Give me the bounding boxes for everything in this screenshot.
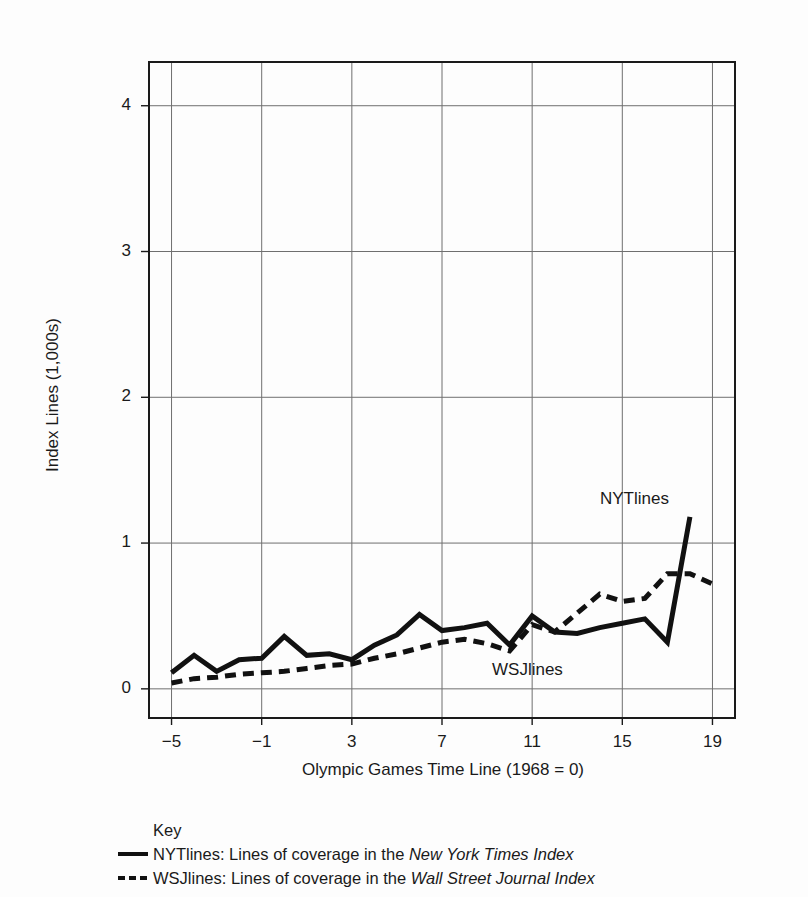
legend-entry-label: NYTlines: Lines of coverage in the New Y… <box>153 842 574 866</box>
x-tick-label: 15 <box>597 732 647 752</box>
legend-entry: NYTlines: Lines of coverage in the New Y… <box>118 842 595 866</box>
x-tick-label: −5 <box>147 732 197 752</box>
legend-entry-source: New York Times Index <box>409 845 574 863</box>
y-axis-label: Index Lines (1,000s) <box>43 280 63 510</box>
legend-title: Key <box>153 818 595 842</box>
x-tick-label: 19 <box>687 732 737 752</box>
x-tick-label: 3 <box>327 732 377 752</box>
axis-ticks <box>141 106 712 725</box>
legend-entry: WSJlines: Lines of coverage in the Wall … <box>118 866 595 890</box>
x-tick-label: −1 <box>237 732 287 752</box>
legend-entry-label: WSJlines: Lines of coverage in the Wall … <box>153 866 595 890</box>
y-tick-label: 2 <box>91 386 131 406</box>
y-tick-label: 1 <box>91 532 131 552</box>
x-tick-label: 7 <box>417 732 467 752</box>
chart-figure: 01234 −5−137111519 Olympic Games Time Li… <box>0 0 808 897</box>
x-tick-label: 11 <box>507 732 557 752</box>
legend-entry-source: Wall Street Journal Index <box>411 869 595 887</box>
y-tick-label: 0 <box>91 678 131 698</box>
legend-swatch-solid-icon <box>118 847 148 861</box>
x-axis-label: Olympic Games Time Line (1968 = 0) <box>148 760 738 780</box>
y-tick-label: 4 <box>91 95 131 115</box>
legend-swatch-dashed-icon <box>118 871 148 885</box>
y-tick-label: 3 <box>91 241 131 261</box>
series-annotation-nytlines: NYTlines <box>600 489 669 509</box>
series-line-nytlines <box>172 517 690 673</box>
legend-key: Key NYTlines: Lines of coverage in the N… <box>118 818 595 890</box>
legend-entries: NYTlines: Lines of coverage in the New Y… <box>118 842 595 890</box>
series-annotation-wsjlines: WSJlines <box>492 660 563 680</box>
